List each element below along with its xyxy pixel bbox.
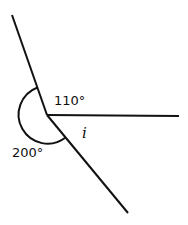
angle-label-i: i [82,124,87,142]
angle-label-200: 200° [12,145,43,160]
angle-diagram [0,0,188,225]
ray-right [47,115,179,116]
angle-label-110: 110° [54,93,85,108]
ray-upper-left [12,15,47,115]
ray-lower-right [47,115,128,213]
